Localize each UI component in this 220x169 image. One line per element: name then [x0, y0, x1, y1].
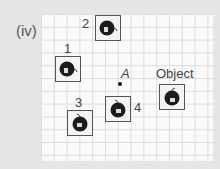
- object-label: Object: [156, 67, 194, 80]
- apple-icon: [70, 113, 90, 133]
- square-grid: [41, 14, 213, 161]
- image-2-apple: [95, 15, 121, 41]
- point-a: [118, 82, 122, 86]
- point-a-label: A: [121, 67, 130, 80]
- image-3-apple: [67, 110, 93, 136]
- apple-icon: [162, 87, 182, 107]
- apple-icon: [108, 99, 128, 119]
- image-3-label: 3: [75, 96, 82, 109]
- object-apple: [159, 84, 185, 110]
- image-1-apple: [55, 56, 81, 82]
- part-label: (iv): [16, 22, 37, 39]
- image-1-label: 1: [64, 42, 71, 55]
- image-4-apple: [105, 96, 131, 122]
- image-4-label: 4: [134, 101, 141, 114]
- apple-icon: [58, 59, 78, 79]
- apple-icon: [98, 18, 118, 38]
- image-2-label: 2: [82, 17, 89, 30]
